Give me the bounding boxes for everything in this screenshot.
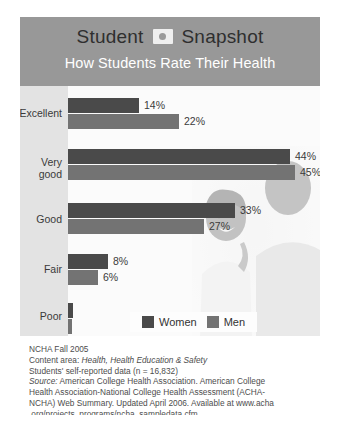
bar-men-fair xyxy=(68,270,98,285)
footer-line-2: Content area: Health, Health Education &… xyxy=(29,355,311,366)
category-label-column: Excellent Verygood Good Fair Poor xyxy=(20,86,68,336)
legend-swatch-women xyxy=(142,316,154,328)
bar-value-women-good: 33% xyxy=(240,203,261,218)
chart-legend: Women Men xyxy=(130,312,257,332)
bar-value-men-very-good: 45% xyxy=(300,165,320,180)
bar-value-women-very-good: 44% xyxy=(295,149,316,164)
footer-content-area-value: Health, Health Education & Safety xyxy=(82,355,207,365)
bar-women-good xyxy=(68,203,235,218)
bar-men-poor xyxy=(68,319,72,334)
footer-line-7: .org/projects_programs/ncha_sampledata.c… xyxy=(29,409,311,415)
bar-women-fair xyxy=(68,254,108,269)
footer-line-5: Health Association-National College Heal… xyxy=(29,387,311,398)
legend-label-men: Men xyxy=(224,316,245,328)
bar-men-excellent xyxy=(68,114,179,129)
student-snapshot-poster: Student Snapshot How Students Rate Their… xyxy=(20,17,320,415)
footer-content-area-prefix: Content area: xyxy=(29,355,82,365)
legend-item-women: Women xyxy=(142,316,197,328)
bar-value-women-excellent: 14% xyxy=(144,98,165,113)
footer-line-4: Source: American College Health Associat… xyxy=(29,376,311,387)
bar-women-excellent xyxy=(68,98,139,113)
category-label-fair: Fair xyxy=(20,263,62,275)
plot-area: 14% 22% 44% 45% 33% 27% 8% 6% xyxy=(68,86,320,336)
bar-women-very-good xyxy=(68,149,290,164)
footer-line-3: Students' self-reported data (n = 16,832… xyxy=(29,366,311,377)
footer-notes: NCHA Fall 2005 Content area: Health, Hea… xyxy=(20,336,320,415)
camera-icon xyxy=(153,29,173,44)
poster-header: Student Snapshot How Students Rate Their… xyxy=(20,17,320,86)
camera-lens-icon xyxy=(159,33,166,40)
bar-value-women-fair: 8% xyxy=(113,254,128,269)
legend-swatch-men xyxy=(207,316,219,328)
bar-value-men-excellent: 22% xyxy=(184,114,205,129)
category-label-excellent: Excellent xyxy=(20,107,62,119)
bar-women-poor xyxy=(68,303,73,318)
bar-value-men-fair: 6% xyxy=(103,270,118,285)
chart-area: Excellent Verygood Good Fair Poor 14% 22… xyxy=(20,86,320,336)
footer-source-text: American College Health Association. Ame… xyxy=(58,376,266,386)
footer-line-6: NCHA) Web Summary. Updated April 2006. A… xyxy=(29,398,311,409)
category-label-good: Good xyxy=(20,213,62,225)
title-word-student: Student xyxy=(77,27,144,46)
legend-item-men: Men xyxy=(207,316,245,328)
category-label-poor: Poor xyxy=(20,310,62,322)
title-word-snapshot: Snapshot xyxy=(182,27,264,46)
category-label-very-good: Verygood xyxy=(20,156,62,180)
legend-label-women: Women xyxy=(159,316,197,328)
footer-line-1: NCHA Fall 2005 xyxy=(29,344,311,355)
bar-men-very-good xyxy=(68,165,295,180)
bar-men-good xyxy=(68,219,204,234)
footer-source-label: Source: xyxy=(29,376,58,386)
poster-subtitle: How Students Rate Their Health xyxy=(20,55,320,71)
title-row: Student Snapshot xyxy=(20,21,320,51)
bar-value-men-good: 27% xyxy=(209,219,230,234)
